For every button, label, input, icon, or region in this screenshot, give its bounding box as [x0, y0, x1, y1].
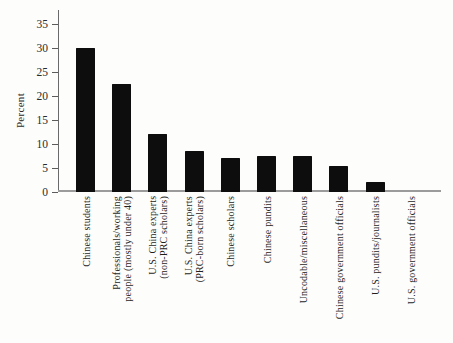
bar: [76, 48, 95, 192]
x-axis-label: U.S. pundits/journalists: [370, 196, 381, 295]
x-axis-label: U.S. government officials: [406, 196, 417, 304]
y-tick-label: 5: [22, 161, 48, 175]
y-tick-label: 25: [22, 65, 48, 79]
y-tick-mark: [52, 72, 58, 73]
y-tick-mark: [52, 120, 58, 121]
y-tick-label: 0: [22, 185, 48, 199]
y-tick-mark: [52, 144, 58, 145]
y-tick-label: 30: [22, 41, 48, 55]
x-axis-label: Chinese students: [80, 196, 91, 267]
bar: [185, 151, 204, 192]
bar-chart-figure: Percent 05101520253035 Chinese studentsP…: [0, 0, 453, 343]
x-axis-label: Chinese government officials: [333, 196, 344, 319]
y-tick-mark: [52, 192, 58, 193]
y-tick-mark: [52, 24, 58, 25]
x-axis-label: Chinese scholars: [225, 196, 236, 267]
bar: [329, 166, 348, 192]
x-axis-label: U.S. China experts (PRC-born scholars): [183, 196, 205, 282]
x-axis-label: Chinese pundits: [261, 196, 272, 263]
y-tick-label: 10: [22, 137, 48, 151]
bar: [221, 158, 240, 192]
y-tick-label: 15: [22, 113, 48, 127]
bar: [148, 134, 167, 192]
y-tick-mark: [52, 48, 58, 49]
x-axis-label: Professionals/working people (mostly und…: [111, 196, 133, 302]
y-tick-label: 35: [22, 17, 48, 31]
x-axis-label: U.S. China experts (non-PRC scholars): [147, 196, 169, 279]
y-tick-mark: [52, 96, 58, 97]
bar: [112, 84, 131, 192]
y-tick-mark: [52, 168, 58, 169]
bar: [366, 182, 385, 192]
x-axis-label: Uncodable/miscellaneous: [297, 196, 308, 303]
y-tick-label: 20: [22, 89, 48, 103]
y-axis-line: [58, 10, 59, 192]
bar: [257, 156, 276, 192]
bar: [293, 156, 312, 192]
